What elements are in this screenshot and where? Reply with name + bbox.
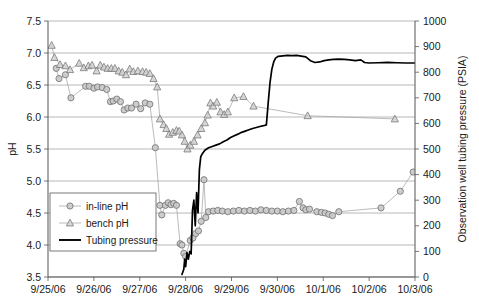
legend-label: bench pH xyxy=(86,218,129,229)
data-point-circle xyxy=(203,214,209,220)
y2-axis-tick-label: 100 xyxy=(423,245,441,257)
legend-label: Tubing pressure xyxy=(86,235,158,246)
data-point-circle xyxy=(296,198,302,204)
data-point-circle xyxy=(138,106,144,112)
y2-axis-tick-label: 400 xyxy=(423,168,441,180)
y2-axis-tick-label: 300 xyxy=(423,194,441,206)
data-point-circle xyxy=(159,212,165,218)
chart-container: 3.54.04.55.05.56.06.57.07.50100200300400… xyxy=(0,0,479,307)
x-axis-tick-label: 10/3/06 xyxy=(397,283,432,295)
x-axis-tick-label: 9/30/06 xyxy=(260,283,295,295)
data-point-circle xyxy=(336,209,342,215)
y-axis-tick-label: 6.5 xyxy=(26,79,41,91)
y-axis-tick-label: 3.5 xyxy=(26,271,41,283)
y-axis-tick-label: 4.5 xyxy=(26,207,41,219)
y-axis-tick-label: 6.0 xyxy=(26,111,41,123)
data-point-circle xyxy=(397,188,403,194)
y-axis-title: pH xyxy=(6,142,18,155)
legend-label: in-line pH xyxy=(86,201,128,212)
y-axis-tick-label: 7.0 xyxy=(26,47,41,59)
y2-axis-tick-label: 200 xyxy=(423,219,441,231)
data-point-circle xyxy=(117,99,123,105)
data-point-circle xyxy=(329,212,335,218)
data-point-circle xyxy=(173,202,179,208)
y2-axis-tick-label: 800 xyxy=(423,66,441,78)
data-point-circle xyxy=(67,203,73,209)
data-point-circle xyxy=(378,205,384,211)
data-point-circle xyxy=(147,101,153,107)
data-point-circle xyxy=(291,207,297,213)
x-axis-tick-label: 9/27/06 xyxy=(122,283,157,295)
x-axis-tick-label: 9/25/06 xyxy=(30,283,65,295)
data-point-circle xyxy=(104,86,110,92)
y-axis-tick-label: 7.5 xyxy=(26,15,41,27)
x-axis-tick-label: 9/28/06 xyxy=(168,283,203,295)
data-point-circle xyxy=(152,145,158,151)
chart-legend: in-line pHbench pHTubing pressure xyxy=(50,193,158,251)
y2-axis-tick-label: 900 xyxy=(423,40,441,52)
data-point-circle xyxy=(195,228,201,234)
data-point-circle xyxy=(56,76,62,82)
y2-axis-tick-label: 600 xyxy=(423,117,441,129)
y2-axis-tick-label: 1000 xyxy=(423,15,447,27)
y-axis-tick-label: 5.0 xyxy=(26,175,41,187)
ph-pressure-chart: 3.54.04.55.05.56.06.57.07.50100200300400… xyxy=(0,0,479,307)
y2-axis-tick-label: 700 xyxy=(423,91,441,103)
y2-axis-title: Observation well tubing pressure (PSIA) xyxy=(456,56,468,243)
y-axis-tick-label: 5.5 xyxy=(26,143,41,155)
chart-background xyxy=(0,0,479,307)
x-axis-tick-label: 9/29/06 xyxy=(214,283,249,295)
data-point-circle xyxy=(68,95,74,101)
x-axis-tick-label: 10/1/06 xyxy=(306,283,341,295)
data-point-circle xyxy=(201,177,207,183)
x-axis-tick-label: 10/2/06 xyxy=(352,283,387,295)
y2-axis-tick-label: 0 xyxy=(423,271,429,283)
y-axis-tick-label: 4.0 xyxy=(26,239,41,251)
x-axis-tick-label: 9/26/06 xyxy=(76,283,111,295)
data-point-circle xyxy=(179,242,185,248)
data-point-circle xyxy=(306,206,312,212)
y2-axis-tick-label: 500 xyxy=(423,143,441,155)
